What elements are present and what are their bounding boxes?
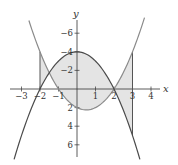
y-tick-label: 2 bbox=[68, 103, 73, 113]
x-tick-label: 1 bbox=[93, 91, 98, 101]
y-tick-label: 4 bbox=[68, 121, 73, 131]
x-tick-label: −2 bbox=[34, 91, 47, 101]
y-axis-label: y bbox=[72, 8, 79, 19]
area-between-curves-chart: −3−2−11234642−2−4−6 x y bbox=[0, 0, 178, 165]
x-tick-label: 2 bbox=[111, 91, 116, 101]
y-tick-label: −6 bbox=[60, 28, 73, 38]
y-tick-label: −4 bbox=[60, 47, 73, 57]
y-tick-label: 6 bbox=[68, 140, 73, 150]
x-tick-label: −1 bbox=[52, 91, 65, 101]
x-axis-label: x bbox=[163, 83, 169, 94]
x-tick-label: 4 bbox=[148, 91, 153, 101]
x-tick-label: −3 bbox=[15, 91, 28, 101]
x-tick-label: 3 bbox=[130, 91, 135, 101]
y-tick-label: −2 bbox=[60, 65, 73, 75]
